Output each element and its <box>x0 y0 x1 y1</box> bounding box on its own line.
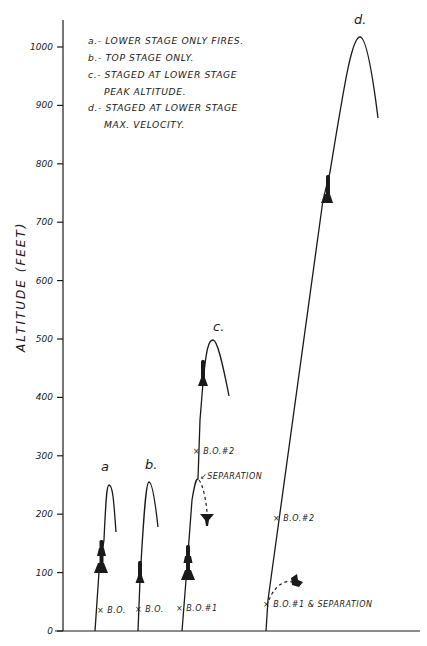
burnout-d1-label: × B.O.#1 & SEPARATION <box>263 600 372 609</box>
legend-item-d: d.- STAGED AT LOWER STAGE <box>88 102 238 113</box>
rocket-a-icon <box>94 540 108 573</box>
trajectory-d <box>266 37 378 631</box>
y-axis-label: ALTITUDE (FEET) <box>14 222 28 352</box>
tick-600: 600 <box>36 276 53 286</box>
rocket-c1-icon <box>181 545 195 580</box>
legend-item-c: c.- STAGED AT LOWER STAGE <box>88 69 237 80</box>
spent-stage-c-icon <box>199 480 214 526</box>
y-tick-labels: 0 100 200 300 400 500 600 700 800 900 10… <box>30 42 53 636</box>
rocket-c2-icon <box>198 360 208 386</box>
burnout-d2-label: × B.O.#2 <box>273 514 315 523</box>
tick-100: 100 <box>36 568 53 578</box>
separation-c-label: ↙SEPARATION <box>200 472 262 481</box>
trace-label-c: c. <box>213 319 224 334</box>
y-axis <box>57 20 63 631</box>
tick-1000: 1000 <box>30 42 53 52</box>
tick-800: 800 <box>36 159 53 169</box>
burnout-c1-label: × B.O.#1 <box>176 604 218 613</box>
tick-200: 200 <box>36 509 53 519</box>
tick-300: 300 <box>36 451 53 461</box>
tick-700: 700 <box>36 217 53 227</box>
tick-500: 500 <box>36 334 53 344</box>
trace-label-d: d. <box>354 12 366 27</box>
legend-item-d-cont: MAX. VELOCITY. <box>104 119 185 130</box>
legend-item-a: a.- LOWER STAGE ONLY FIRES. <box>88 35 244 46</box>
trace-label-b: b. <box>145 457 157 472</box>
legend-item-b: b.- TOP STAGE ONLY. <box>88 52 194 63</box>
burnout-c2-label: × B.O.#2 <box>193 447 235 456</box>
tick-900: 900 <box>36 100 53 110</box>
altitude-chart: 0 100 200 300 400 500 600 700 800 900 10… <box>0 0 427 646</box>
tick-400: 400 <box>36 392 53 402</box>
trace-label-a: a <box>101 459 109 474</box>
burnout-b-label: × B.O. <box>135 605 164 614</box>
rocket-b-icon <box>136 561 145 583</box>
burnout-a-label: × B.O. <box>97 606 126 615</box>
legend-item-c-cont: PEAK ALTITUDE. <box>104 86 186 97</box>
spent-stage-d-icon <box>269 574 303 600</box>
tick-0: 0 <box>47 626 53 636</box>
